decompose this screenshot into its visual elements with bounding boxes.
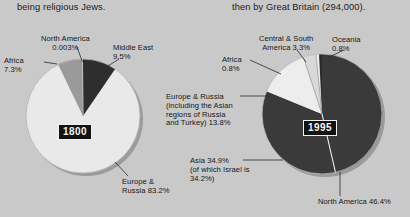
year-badge-1995: 1995	[303, 120, 337, 136]
pie-label-africa-1995: Africa 0.8%	[222, 56, 242, 74]
leader-line-europe-russia-1800	[115, 162, 128, 176]
year-badge-1800: 1800	[58, 124, 92, 140]
pie-label-middle-east-1800: Middle East 9.5%	[113, 44, 153, 62]
pie-label-central-south-america-1995: Central & South America 3.3%	[259, 35, 313, 53]
leader-line-africa-1995	[250, 60, 281, 74]
pie-label-oceania-1995: Oceania 0.8%	[332, 36, 361, 54]
pie-chart-1800	[26, 47, 143, 176]
figure-two-pie-charts: being religious Jews. then by Great Brit…	[0, 0, 410, 217]
pie-label-europe-russia-1995: Europe & Russia (including the Asian reg…	[166, 93, 233, 128]
pie-label-north-america-1800: North America 0.003%	[41, 35, 90, 53]
pie-label-north-america-1995: North America 46.4%	[318, 198, 391, 207]
leader-line-africa-1800	[44, 62, 57, 64]
pie-label-asia-1995: Asia 34.9% (of which Israel is 34.2%)	[190, 157, 250, 183]
pie-label-africa-1800: Africa 7.3%	[4, 57, 24, 75]
pie-label-europe-russia-1800: Europe & Russia 83.2%	[122, 178, 169, 196]
